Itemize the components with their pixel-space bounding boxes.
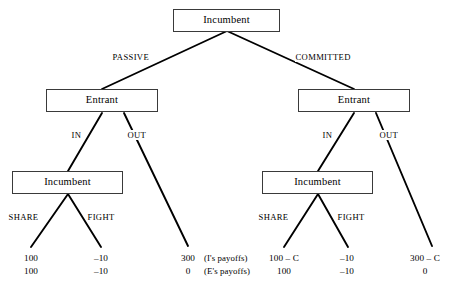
edge-label-incumbent-right-share: SHARE bbox=[258, 212, 289, 222]
edge-label-entrant-right-in: IN bbox=[322, 130, 333, 140]
edge-label-entrant-left-in: IN bbox=[71, 130, 82, 140]
payoff-row-label-incumbent: (I's payoffs) bbox=[204, 253, 248, 263]
terminal-payoff-entrant: –10 bbox=[81, 266, 121, 276]
payoff-row-label-entrant: (E's payoffs) bbox=[204, 266, 250, 276]
edge-label-incumbent-left-share: SHARE bbox=[8, 212, 39, 222]
terminal-payoff-incumbent: 300 bbox=[168, 253, 208, 263]
node-incumbent-left: Incumbent bbox=[12, 171, 123, 194]
edge-entrant-right-in bbox=[318, 113, 354, 171]
edge-label-entrant-left-out: OUT bbox=[127, 130, 147, 140]
tree-edges bbox=[0, 0, 456, 286]
terminal-payoff-entrant: 100 bbox=[257, 266, 311, 276]
terminal-payoff-incumbent: –10 bbox=[81, 253, 121, 263]
game-tree-figure: Incumbent Entrant Entrant Incumbent Incu… bbox=[0, 0, 456, 286]
node-entrant-right: Entrant bbox=[298, 89, 410, 112]
terminal-payoff-incumbent: 300 – C bbox=[398, 253, 452, 263]
edge-label-incumbent-left-fight: FIGHT bbox=[87, 212, 115, 222]
edge-label-entrant-right-out: OUT bbox=[379, 130, 399, 140]
node-label: Incumbent bbox=[203, 15, 250, 26]
node-incumbent-right: Incumbent bbox=[262, 171, 373, 194]
edge-label-committed: COMMITTED bbox=[295, 52, 351, 62]
node-root-incumbent: Incumbent bbox=[173, 9, 280, 32]
terminal-payoff-incumbent: 100 – C bbox=[257, 253, 311, 263]
terminal-payoff-incumbent: –10 bbox=[327, 253, 367, 263]
node-label: Incumbent bbox=[44, 177, 91, 188]
node-label: Entrant bbox=[86, 95, 118, 106]
edge-label-passive: PASSIVE bbox=[112, 52, 150, 62]
terminal-payoff-incumbent: 100 bbox=[11, 253, 51, 263]
node-label: Incumbent bbox=[294, 177, 341, 188]
terminal-payoff-entrant: –10 bbox=[327, 266, 367, 276]
node-entrant-left: Entrant bbox=[46, 89, 158, 112]
terminal-payoff-entrant: 0 bbox=[398, 266, 452, 276]
edge-label-incumbent-right-fight: FIGHT bbox=[337, 212, 365, 222]
node-label: Entrant bbox=[338, 95, 370, 106]
edge-entrant-left-in bbox=[68, 113, 102, 171]
terminal-payoff-entrant: 100 bbox=[11, 266, 51, 276]
edge-incumbent-right-share bbox=[284, 194, 318, 247]
terminal-payoff-entrant: 0 bbox=[168, 266, 208, 276]
